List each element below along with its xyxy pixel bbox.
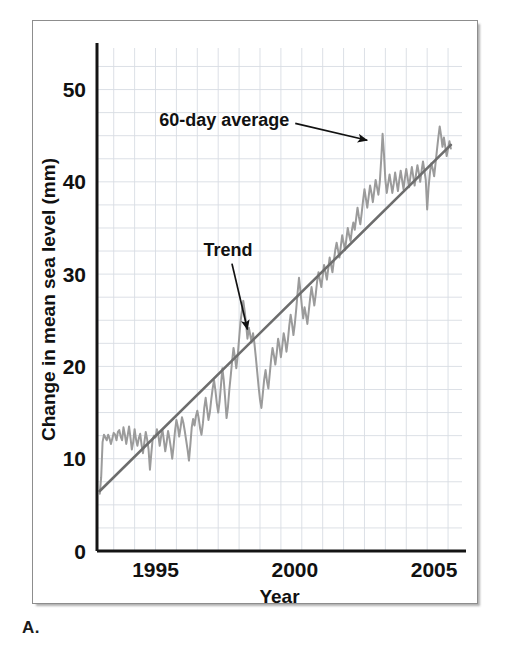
sea-level-chart: 01020304050199520002005 60-day averageTr… [33, 21, 477, 603]
svg-text:30: 30 [63, 263, 86, 286]
svg-text:20: 20 [63, 355, 86, 378]
axis-titles: YearChange in mean sea level (mm) [38, 158, 300, 603]
svg-text:40: 40 [63, 170, 86, 193]
annotation-arrow [232, 264, 248, 330]
svg-text:10: 10 [63, 447, 86, 470]
annotation-arrow [295, 123, 367, 140]
panel-letter: A. [22, 618, 40, 638]
figure-panel: 01020304050199520002005 60-day averageTr… [0, 0, 516, 658]
chart-annotations: 60-day averageTrend [159, 110, 367, 329]
svg-text:50: 50 [63, 78, 86, 101]
svg-text:Change in mean sea level (mm): Change in mean sea level (mm) [38, 158, 59, 441]
svg-text:1995: 1995 [132, 558, 179, 581]
figure-frame: 01020304050199520002005 60-day averageTr… [32, 20, 478, 604]
svg-text:2000: 2000 [271, 558, 318, 581]
svg-text:2005: 2005 [411, 558, 458, 581]
annotation-text: Trend [203, 240, 252, 260]
annotation-text: 60-day average [159, 110, 289, 130]
svg-text:Year: Year [259, 586, 300, 603]
svg-text:0: 0 [74, 540, 86, 563]
